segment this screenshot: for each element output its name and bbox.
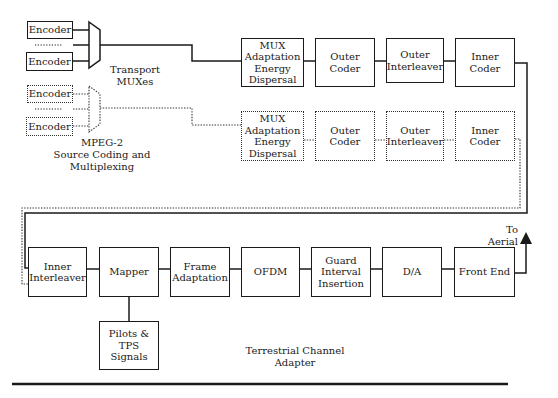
- ofdm-box: OFDM: [241, 247, 300, 297]
- encoder-box-dashed-1: Encoder: [27, 85, 73, 103]
- aerial-arrow-icon: [520, 232, 532, 244]
- pilots-tps-box: Pilots & TPS Signals: [99, 321, 159, 370]
- front-end-box: Front End: [454, 247, 515, 297]
- dvb-t-block-diagram: Encoder Encoder Encoder Encoder Transpor…: [0, 0, 558, 398]
- to-aerial-label: To Aerial: [478, 224, 518, 248]
- encoder-box-1: Encoder: [27, 21, 73, 39]
- frame-adaptation-box: Frame Adaptation: [170, 247, 230, 297]
- inner-coder-box: Inner Coder: [455, 38, 515, 87]
- encoder-box-dashed-2: Encoder: [26, 117, 73, 136]
- transport-muxes-label: Transport MUXes: [105, 64, 165, 88]
- inner-interleaver-box: Inner Interleaver: [28, 247, 87, 297]
- outer-interleaver-box: Outer Interleaver: [386, 38, 444, 83]
- mapper-box: Mapper: [99, 247, 159, 297]
- outer-coder-box-dashed: Outer Coder: [315, 111, 375, 161]
- da-box: D/A: [382, 247, 442, 297]
- outer-coder-box: Outer Coder: [315, 38, 375, 87]
- mpeg2-label: MPEG-2 Source Coding and Multiplexing: [22, 137, 182, 173]
- mux-adaptation-box: MUX Adaptation Energy Dispersal: [241, 38, 304, 87]
- encoder-box-2: Encoder: [26, 52, 73, 71]
- terrestrial-channel-adapter-label: Terrestrial Channel Adapter: [230, 345, 360, 369]
- mux-adaptation-box-dashed: MUX Adaptation Energy Dispersal: [241, 111, 304, 161]
- outer-interleaver-box-dashed: Outer Interleaver: [386, 111, 444, 161]
- inner-coder-box-dashed: Inner Coder: [455, 111, 515, 161]
- guard-interval-box: Guard Interval Insertion: [311, 247, 371, 297]
